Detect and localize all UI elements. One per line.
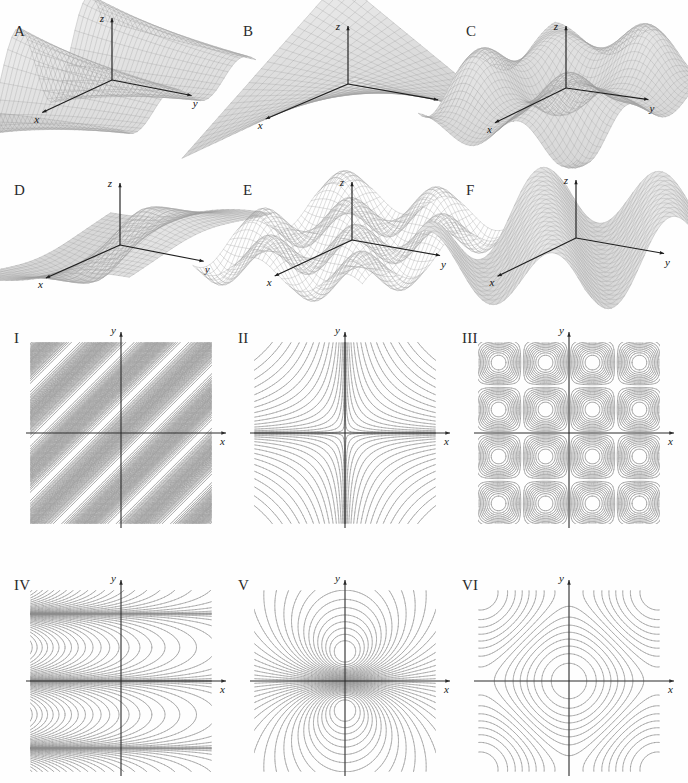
axis-label-x: x — [257, 119, 263, 131]
axis-label-z: z — [335, 20, 341, 32]
contour-label-iii: III — [462, 331, 478, 346]
surface-label-e: E — [243, 183, 252, 198]
axis-label-z: z — [553, 20, 559, 32]
axis-label-z: z — [563, 174, 569, 186]
axis-label-x: x — [33, 113, 39, 125]
axis-label-y: y — [664, 256, 670, 268]
axis-label-x: x — [266, 276, 272, 288]
surface-label-d: D — [14, 183, 25, 198]
axis-label-z: z — [99, 12, 105, 24]
contour-panel-iv: xy — [30, 590, 252, 783]
axis-label-z: z — [339, 176, 345, 188]
axis-label-y: y — [558, 572, 564, 584]
contour-panel-i: xy — [30, 342, 252, 550]
figure-root: zxyAzxyBzxyCzxyDzxyEzxyFxyIxyIIxyIIIxyIV… — [0, 0, 688, 783]
axis-label-y: y — [558, 324, 564, 336]
contour-panel-v: xy — [254, 590, 476, 783]
surface-panel-c: zxy — [454, 8, 684, 168]
axis-label-y: y — [192, 97, 198, 109]
axis-label-x: x — [219, 435, 225, 447]
surface-label-f: F — [466, 183, 475, 198]
surface-panel-a: zxy — [0, 0, 230, 160]
surface-label-c: C — [466, 24, 476, 39]
contour-label-ii: II — [238, 331, 248, 346]
axis-label-y: y — [110, 572, 116, 584]
surface-panel-d: zxy — [8, 165, 238, 325]
axis-label-y: y — [334, 324, 340, 336]
surface-panel-f: zxy — [464, 158, 688, 318]
axis-label-y: y — [648, 102, 654, 114]
contour-label-i: I — [14, 331, 19, 346]
axis-label-x: x — [37, 278, 43, 290]
axis-label-z: z — [107, 177, 113, 189]
axis-label-x: x — [486, 123, 492, 135]
contour-panel-vi: xy — [478, 590, 688, 783]
surface-panel-b: zxy — [236, 4, 466, 164]
contour-panel-iii: xy — [478, 342, 688, 550]
contour-label-vi: VI — [462, 578, 478, 593]
axis-label-x: x — [443, 435, 449, 447]
axis-label-y: y — [334, 572, 340, 584]
axis-label-x: x — [667, 683, 673, 695]
contour-label-v: V — [238, 578, 249, 593]
axis-label-x: x — [489, 276, 495, 288]
contour-label-iv: IV — [14, 578, 30, 593]
axis-label-y: y — [110, 324, 116, 336]
surface-label-b: B — [243, 24, 253, 39]
surface-panel-e: zxy — [240, 160, 470, 320]
surface-label-a: A — [14, 24, 25, 39]
axis-label-x: x — [443, 683, 449, 695]
axis-label-x: x — [219, 683, 225, 695]
contour-panel-ii: xy — [254, 342, 476, 550]
axis-label-y: y — [440, 258, 446, 270]
axis-label-x: x — [667, 435, 673, 447]
